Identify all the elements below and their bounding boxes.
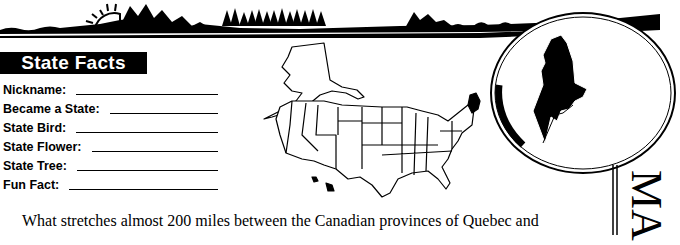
state-medallion — [483, 5, 680, 175]
intro-paragraph-line-1: What stretches almost 200 miles between … — [22, 211, 622, 231]
answer-line[interactable] — [76, 94, 218, 95]
fact-row-state-bird: State Bird: — [3, 117, 218, 136]
fact-label: Nickname: — [3, 83, 66, 98]
answer-line[interactable] — [92, 151, 219, 152]
answer-line[interactable] — [77, 170, 218, 171]
us-map-icon — [262, 35, 492, 200]
fact-row-state-tree: State Tree: — [3, 155, 218, 174]
fact-label: State Flower: — [3, 140, 82, 155]
fact-label: State Bird: — [3, 121, 66, 136]
answer-line[interactable] — [76, 132, 218, 133]
state-name-vertical: MA — [608, 170, 668, 245]
fact-row-became-a-state: Became a State: — [3, 98, 218, 117]
fact-label: Became a State: — [3, 102, 100, 117]
answer-line[interactable] — [110, 113, 218, 114]
fact-row-fun-fact: Fun Fact: — [3, 174, 218, 193]
fact-label: State Tree: — [3, 159, 67, 174]
fact-row-nickname: Nickname: — [3, 79, 218, 98]
facts-list: Nickname: Became a State: State Bird: St… — [3, 79, 218, 193]
fact-label: Fun Fact: — [3, 178, 59, 193]
fact-row-state-flower: State Flower: — [3, 136, 218, 155]
section-title: State Facts — [0, 52, 147, 74]
hawaii-shape — [312, 177, 334, 191]
answer-line[interactable] — [69, 189, 218, 190]
